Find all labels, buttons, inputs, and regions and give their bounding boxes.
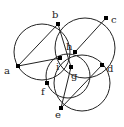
point-g [69, 65, 73, 69]
point-b [56, 22, 60, 26]
point-label-i: i [56, 61, 59, 72]
point-label-g: g [71, 70, 78, 81]
point-label-a: a [4, 65, 10, 76]
circle-4 [46, 54, 90, 98]
segment-ed [61, 65, 102, 108]
point-h [73, 50, 77, 54]
circle-1 [14, 24, 70, 80]
segment-eg [61, 67, 71, 108]
point-label-f: f [41, 86, 46, 97]
point-label-c: c [111, 14, 117, 25]
point-f [45, 81, 49, 85]
point-label-b: b [52, 9, 58, 20]
point-d [100, 63, 104, 67]
segment-hc [75, 18, 106, 52]
point-label-e: e [55, 109, 61, 120]
point-label-h: h [66, 41, 73, 52]
point-c [104, 16, 108, 20]
point-a [16, 64, 20, 68]
point-label-d: d [107, 63, 114, 74]
geometry-diagram: abcdefghi [0, 0, 124, 127]
point-i [58, 56, 62, 60]
